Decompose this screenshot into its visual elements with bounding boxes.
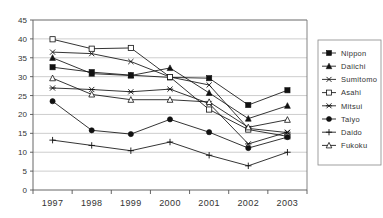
y-axis-tick-label: 20: [18, 110, 27, 119]
data-point: [167, 65, 173, 71]
data-point: [206, 90, 212, 96]
data-point: [285, 117, 291, 123]
data-point: [246, 102, 251, 107]
x-axis-tick-label: 1998: [81, 198, 103, 208]
legend-label: Mitsui: [341, 102, 362, 111]
series-group: [49, 37, 290, 169]
data-point: [245, 163, 251, 169]
series-daiichi: [50, 55, 291, 122]
data-point: [285, 88, 290, 93]
data-point: [167, 117, 172, 122]
x-axis-tick-label: 2003: [277, 198, 299, 208]
plot-frame-group: [33, 20, 307, 190]
data-point: [89, 142, 95, 148]
data-point: [128, 89, 134, 94]
series-asahi: [50, 37, 290, 139]
x-axis-tick-label: 2001: [198, 198, 220, 208]
legend-label: Daido: [341, 128, 362, 137]
data-point: [167, 74, 172, 79]
data-point: [207, 107, 212, 112]
data-point: [207, 76, 212, 81]
gridlines-group: [33, 20, 307, 171]
x-axis-tick-label: 1997: [42, 198, 64, 208]
data-point: [50, 75, 56, 81]
legend-item-daido[interactable]: Daido: [322, 128, 362, 137]
y-axis-tick-label: 25: [18, 92, 27, 101]
chart-container: 051015202530354045 199719981999200020012…: [0, 0, 383, 218]
data-point: [167, 139, 173, 145]
legend-item-taiyo[interactable]: Taiyo: [322, 115, 360, 124]
data-point: [128, 148, 134, 154]
x-axis-tick-label: 1999: [120, 198, 142, 208]
data-point: [246, 145, 251, 150]
legend-group: NipponDaiichiSumitomoAsahiMitsuiTaiyoDai…: [318, 40, 381, 165]
legend-label: Asahi: [341, 88, 361, 97]
data-point: [49, 85, 55, 90]
data-point: [89, 128, 94, 133]
legend-marker-filled-square: [327, 51, 332, 56]
y-axis-labels-group: 051015202530354045: [18, 16, 33, 195]
legend-marker-open-square: [327, 90, 332, 95]
y-axis-tick-label: 15: [18, 129, 27, 138]
data-point: [284, 149, 290, 155]
data-point: [89, 46, 94, 51]
data-point: [128, 131, 133, 136]
legend-item-daiichi[interactable]: Daiichi: [322, 62, 366, 71]
y-axis-tick-label: 0: [23, 186, 28, 195]
x-axis-tick-label: 2002: [237, 198, 259, 208]
data-point: [50, 65, 55, 70]
data-point: [50, 99, 55, 104]
legend-item-nippon[interactable]: Nippon: [322, 49, 367, 58]
y-axis-tick-label: 45: [18, 16, 27, 25]
legend-label: Fukoku: [341, 141, 367, 150]
data-point: [49, 137, 55, 143]
legend-label: Daiichi: [341, 62, 366, 71]
data-point: [50, 37, 55, 42]
legend-marker-asterisk: [326, 103, 332, 108]
x-axis-group: 1997199819992000200120022003: [33, 190, 307, 208]
y-axis-tick-label: 30: [18, 73, 27, 82]
legend-item-asahi[interactable]: Asahi: [322, 88, 361, 97]
data-point: [285, 103, 291, 109]
data-point: [207, 130, 212, 135]
legend-item-sumitomo[interactable]: Sumitomo: [322, 75, 377, 84]
data-point: [285, 135, 290, 140]
data-point: [167, 87, 173, 92]
data-point: [128, 45, 133, 50]
series-mitsui: [49, 85, 290, 146]
legend-label: Taiyo: [341, 115, 360, 124]
x-axis-tick-label: 2000: [159, 198, 181, 208]
y-axis-tick-label: 40: [18, 35, 27, 44]
legend-label: Sumitomo: [341, 75, 377, 84]
data-point: [206, 152, 212, 158]
y-axis-tick-label: 5: [23, 167, 28, 176]
legend-marker-plus: [326, 129, 332, 135]
y-axis-tick-label: 10: [18, 148, 27, 157]
legend-marker-filled-circle: [327, 117, 332, 122]
legend-label: Nippon: [341, 49, 367, 58]
legend-item-fukoku[interactable]: Fukoku: [322, 141, 367, 150]
legend-item-mitsui[interactable]: Mitsui: [322, 102, 362, 111]
y-axis-tick-label: 35: [18, 54, 27, 63]
line-chart: 051015202530354045 199719981999200020012…: [0, 0, 383, 218]
